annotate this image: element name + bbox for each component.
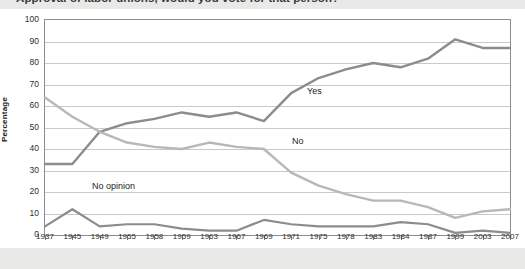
y-tick-label: 70 [9,80,39,89]
plot-frame [44,19,511,236]
y-tick-label: 60 [9,101,39,110]
y-tick-label: 90 [9,37,39,46]
series-label-yes: Yes [307,86,322,96]
y-tick-label: 30 [9,166,39,175]
series-label-no: No [292,136,304,146]
series-line-yes [45,39,510,164]
y-tick-label: 80 [9,58,39,67]
y-axis-tick-labels: 0102030405060708090100 [8,19,39,236]
x-tick-label: 2007 [490,232,525,242]
series-line-no [45,97,510,217]
page-title: Approval of labor unions, would you vote… [16,0,339,4]
chart-screenshot: Approval of labor unions, would you vote… [0,0,525,269]
y-tick-label: 20 [9,187,39,196]
y-tick-label: 50 [9,123,39,132]
y-tick-label: 10 [9,209,39,218]
chart-title-strip: Approval of labor unions, would you vote… [0,0,525,9]
y-tick-label: 100 [9,15,39,24]
chart-lines [45,20,510,235]
series-label-no-opinion: No opinion [92,181,135,191]
bottom-band [0,248,525,269]
plot-card: Percentage 0102030405060708090100 [0,9,525,248]
x-axis-tick-labels: 1937194519491955195819591963196719691971… [0,232,525,246]
y-tick-label: 40 [9,144,39,153]
